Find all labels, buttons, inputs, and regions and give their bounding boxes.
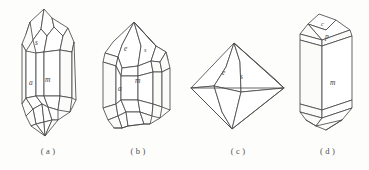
crystal-panel-a: s a m ( a )	[0, 0, 96, 170]
crystal-drawing-c: e s	[184, 0, 292, 145]
face-label-c-s: s	[240, 72, 243, 81]
face-label-b-m: m	[135, 76, 141, 85]
face-label-a-m: m	[45, 75, 51, 84]
face-label-a-a: a	[29, 78, 33, 87]
crystal-panel-c: e s ( c )	[184, 0, 292, 170]
crystal-panel-b: e s a m ( b )	[88, 0, 188, 170]
face-label-d-m: m	[330, 78, 336, 87]
caption-b: ( b )	[88, 146, 188, 156]
caption-a: ( a )	[0, 146, 96, 156]
figure-board: s a m ( a )	[0, 0, 369, 170]
caption-d: ( d )	[286, 146, 369, 156]
crystal-drawing-b: e s a m	[88, 0, 188, 145]
crystal-panel-d: c p m ( d )	[286, 0, 369, 170]
face-label-a-s: s	[35, 38, 38, 47]
crystal-drawing-a: s a m	[0, 0, 96, 145]
face-label-b-a: a	[118, 84, 122, 93]
caption-c: ( c )	[184, 146, 292, 156]
face-label-d-p: p	[324, 32, 329, 41]
face-label-d-c: c	[321, 20, 324, 27]
crystal-drawing-d: c p m	[286, 0, 369, 145]
